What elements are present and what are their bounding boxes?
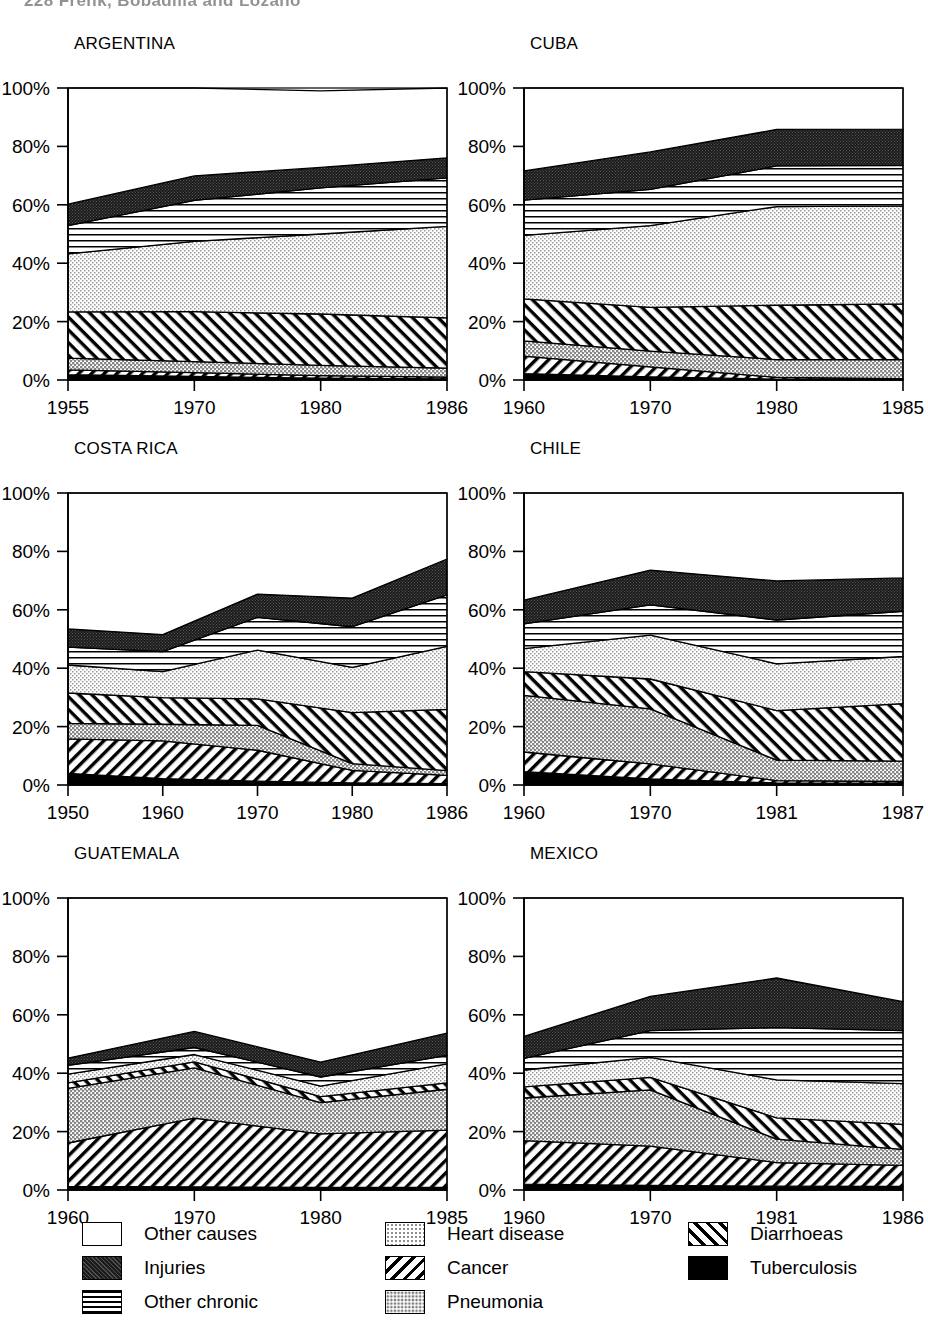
y-tick-label: 80% xyxy=(12,946,50,967)
legend-swatch-cancer xyxy=(385,1256,425,1280)
chart-panel-cuba: CUBA xyxy=(456,30,916,435)
y-tick-label: 60% xyxy=(12,600,50,621)
x-tick-label: 1981 xyxy=(756,802,798,823)
y-tick-label: 0% xyxy=(23,775,51,796)
legend-column-1: Other causesInjuriesOther chronic xyxy=(82,1222,382,1320)
y-tick-label: 20% xyxy=(468,1122,506,1143)
legend-swatch-other_causes xyxy=(82,1222,122,1246)
y-tick-label: 0% xyxy=(23,370,51,391)
y-tick-label: 80% xyxy=(12,136,50,157)
x-tick-label: 1970 xyxy=(236,802,278,823)
chart-panel-argentina: ARGENTINA xyxy=(0,30,460,435)
y-tick-label: 60% xyxy=(12,195,50,216)
area-band-cancer xyxy=(68,312,447,368)
legend-swatch-tuberculosis xyxy=(688,1256,728,1280)
y-tick-label: 100% xyxy=(1,483,50,504)
y-tick-label: 100% xyxy=(457,78,506,99)
y-tick-label: 100% xyxy=(1,78,50,99)
y-tick-label: 80% xyxy=(468,136,506,157)
y-tick-label: 40% xyxy=(468,1063,506,1084)
x-tick-label: 1970 xyxy=(629,397,671,418)
legend-label-cancer: Cancer xyxy=(447,1256,508,1280)
y-tick-label: 0% xyxy=(479,1180,507,1201)
x-tick-label: 1987 xyxy=(882,802,924,823)
legend-label-other_chronic: Other chronic xyxy=(144,1290,258,1314)
y-tick-label: 60% xyxy=(468,1005,506,1026)
legend-swatch-other_chronic xyxy=(82,1290,122,1314)
y-tick-label: 80% xyxy=(12,541,50,562)
chart-panel-costa-rica: COSTA RICA xyxy=(0,435,460,840)
legend-swatch-injuries xyxy=(82,1256,122,1280)
chart-svg-holder: 0%20%40%60%80%100% 1960197019801985 xyxy=(0,840,467,1245)
area-chart-svg: 0%20%40%60%80%100% 1960197019801985 xyxy=(456,30,923,435)
y-tick-label: 20% xyxy=(468,717,506,738)
y-tick-label: 0% xyxy=(23,1180,51,1201)
area-chart-svg: 0%20%40%60%80%100% 1955197019801986 xyxy=(0,30,467,435)
y-tick-label: 100% xyxy=(457,483,506,504)
legend-label-injuries: Injuries xyxy=(144,1256,205,1280)
legend-label-other_causes: Other causes xyxy=(144,1222,257,1246)
chart-svg-holder: 0%20%40%60%80%100% 1955197019801986 xyxy=(0,30,467,435)
chart-panel-guatemala: GUATEMALA xyxy=(0,840,460,1245)
y-tick-label: 80% xyxy=(468,946,506,967)
x-tick-label: 1980 xyxy=(756,397,798,418)
legend-item-pneumonia: Pneumonia xyxy=(385,1290,543,1314)
x-tick-label: 1955 xyxy=(47,397,89,418)
legend-swatch-heart_disease xyxy=(385,1222,425,1246)
x-tick-label: 1980 xyxy=(300,397,342,418)
y-tick-label: 20% xyxy=(12,717,50,738)
legend-column-3: DiarrhoeasTuberculosis xyxy=(688,1222,928,1320)
chart-svg-holder: 0%20%40%60%80%100% 1960197019811987 xyxy=(456,435,923,840)
legend-item-other_causes: Other causes xyxy=(82,1222,257,1246)
chart-legend: Other causesInjuriesOther chronicHeart d… xyxy=(0,1222,920,1320)
x-tick-label: 1985 xyxy=(882,397,924,418)
chart-svg-holder: 0%20%40%60%80%100% 1960197019811986 xyxy=(456,840,923,1245)
y-tick-label: 40% xyxy=(468,253,506,274)
y-tick-label: 20% xyxy=(12,312,50,333)
y-tick-label: 60% xyxy=(468,600,506,621)
legend-item-other_chronic: Other chronic xyxy=(82,1290,258,1314)
x-tick-label: 1980 xyxy=(331,802,373,823)
legend-label-diarrhoeas: Diarrhoeas xyxy=(750,1222,843,1246)
x-tick-label: 1950 xyxy=(47,802,89,823)
area-chart-svg: 0%20%40%60%80%100% 19501960197019801986 xyxy=(0,435,467,840)
y-tick-label: 0% xyxy=(479,370,507,391)
x-tick-label: 1960 xyxy=(503,397,545,418)
legend-label-pneumonia: Pneumonia xyxy=(447,1290,543,1314)
legend-label-heart_disease: Heart disease xyxy=(447,1222,564,1246)
legend-item-diarrhoeas: Diarrhoeas xyxy=(688,1222,843,1246)
area-chart-svg: 0%20%40%60%80%100% 1960197019801985 xyxy=(0,840,467,1245)
y-tick-label: 40% xyxy=(12,1063,50,1084)
y-tick-label: 60% xyxy=(12,1005,50,1026)
y-tick-label: 100% xyxy=(457,888,506,909)
x-tick-label: 1960 xyxy=(142,802,184,823)
area-band-other-causes xyxy=(68,898,447,1062)
y-tick-label: 100% xyxy=(1,888,50,909)
y-tick-label: 20% xyxy=(468,312,506,333)
legend-swatch-pneumonia xyxy=(385,1290,425,1314)
x-tick-label: 1970 xyxy=(629,802,671,823)
y-tick-label: 80% xyxy=(468,541,506,562)
chart-svg-holder: 0%20%40%60%80%100% 19501960197019801986 xyxy=(0,435,467,840)
x-tick-label: 1970 xyxy=(173,397,215,418)
legend-column-2: Heart diseaseCancerPneumonia xyxy=(385,1222,685,1320)
legend-item-injuries: Injuries xyxy=(82,1256,205,1280)
chart-svg-holder: 0%20%40%60%80%100% 1960197019801985 xyxy=(456,30,923,435)
y-tick-label: 60% xyxy=(468,195,506,216)
y-tick-label: 20% xyxy=(12,1122,50,1143)
area-chart-svg: 0%20%40%60%80%100% 1960197019811986 xyxy=(456,840,923,1245)
legend-label-tuberculosis: Tuberculosis xyxy=(750,1256,857,1280)
legend-item-tuberculosis: Tuberculosis xyxy=(688,1256,857,1280)
y-tick-label: 40% xyxy=(12,658,50,679)
chart-panel-mexico: MEXICO xyxy=(456,840,916,1245)
legend-item-cancer: Cancer xyxy=(385,1256,508,1280)
y-tick-label: 0% xyxy=(479,775,507,796)
legend-swatch-diarrhoeas xyxy=(688,1222,728,1246)
y-tick-label: 40% xyxy=(468,658,506,679)
chart-panel-chile: CHILE xyxy=(456,435,916,840)
y-tick-label: 40% xyxy=(12,253,50,274)
x-tick-label: 1960 xyxy=(503,802,545,823)
area-chart-svg: 0%20%40%60%80%100% 1960197019811987 xyxy=(456,435,923,840)
legend-item-heart_disease: Heart disease xyxy=(385,1222,564,1246)
